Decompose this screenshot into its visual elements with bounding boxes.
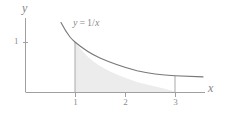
equation-operator: = xyxy=(77,17,87,28)
x-tick-label-3: 3 xyxy=(171,98,180,107)
y-tick-label-1: 1 xyxy=(14,37,19,46)
figure-container: y x 1 1 2 3 y=1/x xyxy=(0,0,228,120)
plot-svg xyxy=(0,0,228,120)
equation-denominator: x xyxy=(95,17,99,28)
x-axis-label: x xyxy=(208,82,213,94)
curve-equation-label: y=1/x xyxy=(73,18,99,28)
y-axis-label: y xyxy=(22,2,27,14)
x-tick-label-2: 2 xyxy=(121,98,130,107)
x-tick-label-1: 1 xyxy=(71,98,80,107)
